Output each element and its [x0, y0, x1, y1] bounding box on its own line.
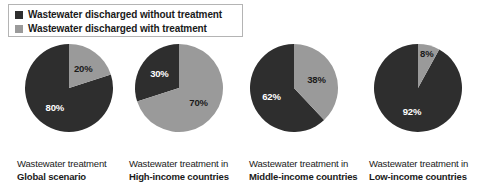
pie-svg: 62%38%: [246, 40, 342, 136]
pie-slice-value-label: 62%: [262, 91, 281, 102]
legend-item-label: Wastewater discharged with treatment: [28, 23, 207, 34]
pie-svg: 92%8%: [370, 40, 466, 136]
caption-line-2: Global scenario: [17, 170, 139, 183]
pie-svg: 30%70%: [131, 40, 227, 136]
caption-line-1: Wastewater treatment in: [129, 157, 251, 170]
legend-item-without-treatment: Wastewater discharged without treatment: [15, 8, 236, 21]
pie-chart-global-scenario: 80%20%: [9, 40, 129, 152]
caption-high-income: Wastewater treatment in High-income coun…: [129, 157, 251, 183]
pie-slice-value-label: 8%: [420, 48, 434, 59]
pie-svg: 80%20%: [21, 40, 117, 136]
pie-chart-middle-income: 62%38%: [234, 40, 354, 152]
legend-item-label: Wastewater discharged without treatment: [28, 9, 222, 20]
pie-slice-value-label: 30%: [150, 68, 169, 79]
square-swatch-icon: [15, 25, 23, 33]
square-swatch-icon: [15, 11, 23, 19]
caption-line-2: Middle-income countries: [249, 170, 371, 183]
pie-slice-value-label: 92%: [403, 106, 422, 117]
caption-line-2: High-income countries: [129, 170, 251, 183]
pie-slice-value-label: 20%: [74, 63, 93, 74]
pie-chart-high-income: 30%70%: [119, 40, 239, 152]
caption-middle-income: Wastewater treatment in Middle-income co…: [249, 157, 371, 183]
caption-group: Wastewater treatment Global scenario Was…: [0, 157, 485, 189]
caption-global-scenario: Wastewater treatment Global scenario: [17, 157, 139, 183]
pie-slice-value-label: 70%: [189, 97, 208, 108]
chart-legend: Wastewater discharged without treatment …: [8, 4, 243, 37]
pie-slice-value-label: 38%: [307, 74, 326, 85]
pie-chart-group: 80%20% 30%70% 62%38% 92%8%: [0, 40, 485, 152]
pie-chart-low-income: 92%8%: [358, 40, 478, 152]
caption-line-1: Wastewater treatment in: [369, 157, 485, 170]
pie-slice-value-label: 80%: [46, 102, 65, 113]
caption-low-income: Wastewater treatment in Low-income count…: [369, 157, 485, 183]
caption-line-2: Low-income countries: [369, 170, 485, 183]
caption-line-1: Wastewater treatment in: [249, 157, 371, 170]
caption-line-1: Wastewater treatment: [17, 157, 139, 170]
legend-item-with-treatment: Wastewater discharged with treatment: [15, 22, 236, 35]
